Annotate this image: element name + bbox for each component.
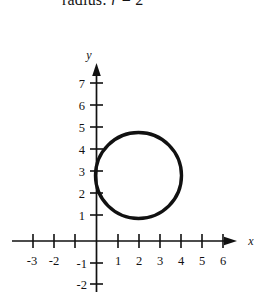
x-tick-label-5: 5	[199, 254, 205, 268]
x-axis-label: x	[247, 234, 254, 248]
circle-curve	[96, 133, 182, 219]
x-tick-label-6: 6	[220, 254, 226, 268]
y-axis-label: y	[85, 48, 92, 62]
y-tick-label-1: 1	[79, 209, 85, 223]
x-tick-labels: -3 -2 1 2 3 4 5 6	[27, 254, 226, 268]
y-tick-label-5: 5	[79, 121, 85, 135]
x-tick-label-neg2: -2	[49, 254, 59, 268]
x-tick-label-neg3: -3	[27, 254, 37, 268]
y-axis-arrowhead	[92, 63, 101, 76]
figure-root: radius: r = 2	[0, 0, 270, 295]
y-tick-label-neg1: -1	[77, 257, 87, 271]
x-tick-label-4: 4	[178, 254, 185, 268]
x-tick-label-3: 3	[157, 254, 163, 268]
y-tick-labels: 7 6 5 4 3 2 1 -1 -2	[77, 77, 87, 292]
coordinate-plot: 7 6 5 4 3 2 1 -1 -2 -3 -2 1 2 3 4 5 6 y …	[0, 0, 270, 295]
x-tick-label-2: 2	[136, 254, 142, 268]
y-tick-label-6: 6	[79, 99, 85, 113]
x-axis	[12, 237, 237, 245]
x-tick-label-1: 1	[115, 254, 121, 268]
y-tick-label-3: 3	[79, 165, 85, 179]
x-axis-arrowhead	[224, 237, 237, 245]
y-tick-label-7: 7	[79, 77, 85, 91]
y-tick-label-4: 4	[79, 143, 86, 157]
y-tick-label-neg2: -2	[77, 278, 87, 292]
y-tick-label-2: 2	[79, 187, 85, 201]
